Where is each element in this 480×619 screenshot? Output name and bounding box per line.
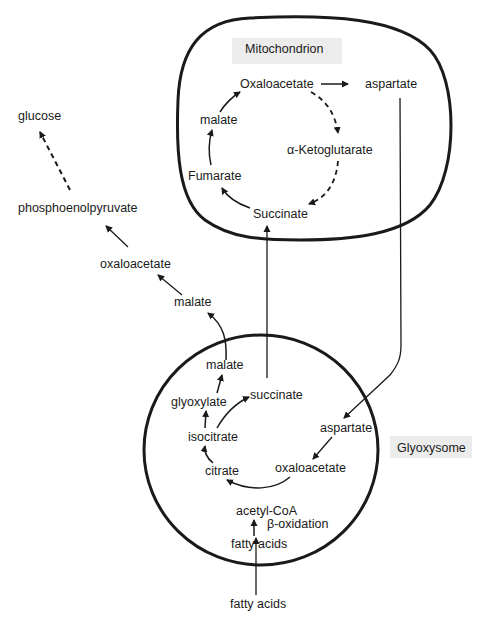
mito-succinate: Succinate — [253, 207, 308, 221]
mito-malate: malate — [200, 113, 238, 127]
cytosol-malate: malate — [174, 295, 212, 309]
arrow-oaa-to-citrate — [227, 477, 290, 488]
mitochondrion-label: Mitochondrion — [245, 42, 324, 56]
arrow-malate-to-oaa-cytosol — [158, 275, 182, 295]
mito-oxaloacetate: Oxaloacetate — [240, 77, 314, 91]
cytosol-fatty-acids: fatty acids — [230, 597, 286, 611]
glyox-oxaloacetate: oxaloacetate — [275, 461, 346, 475]
cytosol-oxaloacetate: oxaloacetate — [100, 257, 171, 271]
glyox-fatty-acids: fatty acids — [231, 537, 287, 551]
arrow-glyox-malate-to-cytosol-malate — [208, 313, 226, 360]
glyox-isocitrate: isocitrate — [188, 430, 238, 444]
cytosol-glucose: glucose — [18, 109, 61, 123]
arrow-citrate-to-isocitrate — [205, 446, 213, 463]
mito-alpha-ketoglutarate: α-Ketoglutarate — [287, 143, 373, 157]
arrow-fumarate-to-malate — [209, 130, 212, 165]
glyoxysome-membrane — [144, 335, 378, 565]
arrow-isocitrate-to-glyoxylate — [205, 411, 206, 428]
glyox-beta-oxidation: β-oxidation — [267, 517, 328, 531]
arrow-succinate-to-fumarate — [222, 188, 250, 208]
arrow-oaa-to-akg — [311, 92, 338, 133]
glyox-malate: malate — [206, 358, 244, 372]
glyoxysome-label: Glyoxysome — [397, 441, 466, 455]
glyox-glyoxylate: glyoxylate — [171, 395, 227, 409]
glyox-citrate: citrate — [205, 464, 239, 478]
arrow-pep-to-glucose — [40, 132, 70, 190]
arrow-akg-to-succinate — [309, 161, 338, 204]
mito-aspartate: aspartate — [365, 77, 417, 91]
glyox-aspartate: aspartate — [320, 421, 372, 435]
arrow-malate-to-oaa — [220, 92, 240, 112]
arrow-aspartate-to-oaa — [313, 437, 332, 459]
glyoxylate-cycle-diagram: Mitochondrion Oxaloacetate aspartate mal… — [0, 0, 480, 619]
arrow-glyoxylate-to-malate — [217, 375, 222, 393]
mito-fumarate: Fumarate — [188, 169, 242, 183]
arrow-oaa-to-pep — [106, 226, 128, 247]
glyox-acetyl-coa: acetyl-CoA — [236, 504, 298, 518]
cytosol-phosphoenolpyruvate: phosphoenolpyruvate — [18, 201, 138, 215]
glyox-succinate: succinate — [250, 388, 303, 402]
